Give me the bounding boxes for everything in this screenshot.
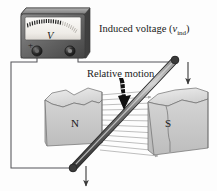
south-pole-label: S xyxy=(165,118,171,129)
induced-voltage-subscript: ind xyxy=(177,29,186,37)
terminal-negative-label: – xyxy=(70,43,75,52)
induced-voltage-prefix: Induced voltage ( xyxy=(99,23,172,34)
voltmeter[interactable] xyxy=(21,8,90,58)
north-pole-label: N xyxy=(71,118,79,129)
wire-negative-branch xyxy=(78,58,175,62)
voltmeter-unit-label: V xyxy=(47,31,53,42)
induced-voltage-label: Induced voltage (vind) xyxy=(99,24,190,37)
relative-motion-label: Relative motion xyxy=(87,69,154,80)
induced-voltage-suffix: ) xyxy=(186,23,190,34)
magnet-south-pole xyxy=(148,88,208,155)
induction-diagram: Induced voltage (vind) Relative motion N… xyxy=(0,0,217,191)
terminal-positive-label: + xyxy=(28,41,33,50)
